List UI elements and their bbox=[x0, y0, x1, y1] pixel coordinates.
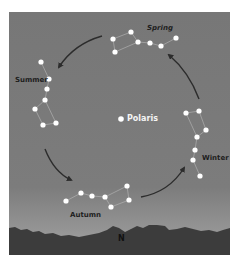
star-spring bbox=[147, 40, 152, 45]
season-label-autumn: Autumn bbox=[70, 212, 101, 219]
star-winter bbox=[194, 134, 199, 139]
polaris-star bbox=[118, 116, 124, 122]
season-label-winter: Winter bbox=[202, 155, 229, 162]
star-spring bbox=[128, 29, 133, 34]
night-sky bbox=[9, 12, 230, 255]
star-winter bbox=[203, 127, 208, 132]
star-autumn bbox=[89, 193, 94, 198]
star-rotation-diagram: Spring Summer Winter Autumn Polaris N bbox=[9, 12, 230, 255]
season-label-spring: Spring bbox=[147, 25, 173, 32]
star-summer bbox=[44, 86, 49, 91]
star-autumn bbox=[124, 183, 129, 188]
star-spring bbox=[173, 35, 178, 40]
star-summer bbox=[38, 59, 43, 64]
star-spring bbox=[135, 39, 140, 44]
sky-background bbox=[9, 12, 230, 255]
star-summer bbox=[32, 106, 37, 111]
star-autumn bbox=[78, 190, 83, 195]
star-autumn bbox=[126, 197, 131, 202]
star-autumn bbox=[102, 194, 107, 199]
star-summer bbox=[40, 122, 45, 127]
star-spring bbox=[158, 43, 163, 48]
star-autumn bbox=[63, 198, 68, 203]
star-winter bbox=[183, 110, 188, 115]
star-winter bbox=[196, 108, 201, 113]
star-spring bbox=[112, 49, 117, 54]
star-summer bbox=[42, 97, 47, 102]
star-autumn bbox=[108, 204, 113, 209]
polaris-label: Polaris bbox=[127, 115, 158, 123]
star-winter bbox=[192, 147, 197, 152]
north-compass-label: N bbox=[118, 235, 125, 243]
star-spring bbox=[110, 36, 115, 41]
season-label-summer: Summer bbox=[15, 77, 48, 84]
star-summer bbox=[53, 120, 58, 125]
star-winter bbox=[190, 157, 195, 162]
star-winter bbox=[197, 173, 202, 178]
